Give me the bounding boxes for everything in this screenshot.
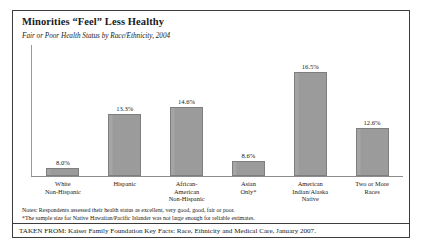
x-tick-line: White bbox=[33, 180, 93, 188]
note-footnote-asterisk: *The sample size for Native Hawaiian/Pac… bbox=[22, 214, 401, 222]
x-tick-line: Non-Hispanic bbox=[157, 195, 217, 203]
x-tick-line: African- bbox=[157, 180, 217, 188]
bar-rect bbox=[232, 161, 265, 176]
bar-rect bbox=[294, 72, 327, 176]
bar-value-label: 13.3% bbox=[116, 105, 133, 113]
chart-title: Minorities “Feel” Less Healthy bbox=[22, 16, 401, 28]
title-block: Minorities “Feel” Less Healthy Fair or P… bbox=[22, 16, 401, 41]
x-tick-line: American bbox=[280, 180, 340, 188]
x-axis-tick-labels: White Non-Hispanic Hispanic African- Ame… bbox=[32, 180, 403, 203]
bar-value-label: 14.6% bbox=[178, 98, 195, 106]
notes-block: Notes: Respondents assessed their health… bbox=[22, 206, 401, 222]
bar-value-label: 8.6% bbox=[242, 152, 256, 160]
bar-rect bbox=[170, 107, 203, 176]
x-tick-line: Races bbox=[342, 188, 402, 196]
bar-group: 13.3% bbox=[94, 45, 156, 176]
bar-series: 8.0% 13.3% 14.6% 8.6% 16.5% 12.6% bbox=[32, 45, 403, 176]
x-axis-line bbox=[31, 176, 403, 177]
figure-frame: Minorities “Feel” Less Healthy Fair or P… bbox=[12, 10, 410, 238]
bar-group: 8.0% bbox=[32, 45, 94, 176]
bar-value-label: 12.6% bbox=[364, 119, 381, 127]
source-divider bbox=[13, 223, 409, 224]
note-methodology: Notes: Respondents assessed their health… bbox=[22, 206, 401, 214]
bar-group: 8.6% bbox=[217, 45, 279, 176]
x-tick-line: Indian/Alaska bbox=[280, 188, 340, 196]
bar-value-label: 16.5% bbox=[302, 63, 319, 71]
x-tick-line: American bbox=[157, 188, 217, 196]
bar-rect bbox=[356, 128, 389, 176]
x-tick-line: Native bbox=[280, 195, 340, 203]
x-tick-line: Only* bbox=[218, 188, 278, 196]
plot-area: 8.0% 13.3% 14.6% 8.6% 16.5% 12.6% bbox=[31, 45, 403, 177]
x-tick-label-hispanic: Hispanic bbox=[94, 180, 156, 203]
bar-group: 14.6% bbox=[156, 45, 218, 176]
x-tick-label-african-american: African- American Non-Hispanic bbox=[156, 180, 218, 203]
x-tick-line: Non-Hispanic bbox=[33, 188, 93, 196]
x-tick-label-asian-only: Asian Only* bbox=[217, 180, 279, 203]
x-tick-line: Asian bbox=[218, 180, 278, 188]
x-tick-label-white-non-hispanic: White Non-Hispanic bbox=[32, 180, 94, 203]
bar-rect bbox=[46, 168, 79, 176]
chart-subtitle: Fair or Poor Health Status by Race/Ethni… bbox=[22, 32, 401, 41]
source-attribution: TAKEN FROM: Kaiser Family Foundation Key… bbox=[19, 226, 403, 236]
bar-group: 16.5% bbox=[279, 45, 341, 176]
x-tick-line: Two or More bbox=[342, 180, 402, 188]
x-tick-label-two-or-more-races: Two or More Races bbox=[341, 180, 403, 203]
bar-value-label: 8.0% bbox=[56, 159, 70, 167]
x-tick-line: Hispanic bbox=[95, 180, 155, 188]
bar-rect bbox=[108, 114, 141, 176]
bar-group: 12.6% bbox=[341, 45, 403, 176]
x-tick-label-american-indian-alaska-native: American Indian/Alaska Native bbox=[279, 180, 341, 203]
